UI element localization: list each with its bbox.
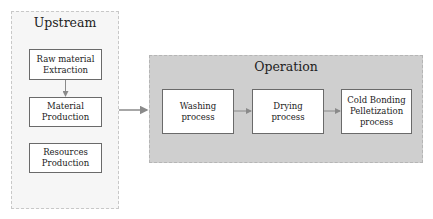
connector-arrows [0, 0, 433, 219]
